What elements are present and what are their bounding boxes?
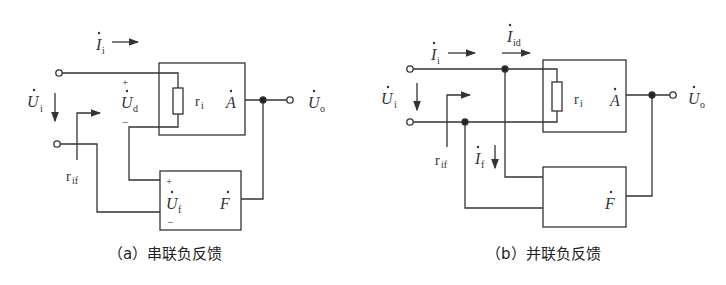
input-terminal-bottom-b <box>407 119 413 125</box>
svg-text:A: A <box>225 94 236 111</box>
svg-text:−: − <box>167 216 173 228</box>
svg-text:o: o <box>700 99 705 110</box>
resistor-ri-b <box>552 82 562 111</box>
svg-text:i: i <box>437 55 440 66</box>
output-node-b <box>649 92 655 98</box>
svg-text:I: I <box>95 36 102 53</box>
svg-text:−: − <box>122 116 128 128</box>
svg-text:id: id <box>513 37 521 48</box>
svg-text:r: r <box>66 169 71 184</box>
node-top-b <box>502 66 508 72</box>
svg-text:i: i <box>394 99 397 110</box>
svg-text:F: F <box>219 195 230 212</box>
svg-text:r: r <box>574 92 579 107</box>
svg-text:f: f <box>178 204 182 215</box>
svg-text:A: A <box>609 92 620 109</box>
svg-text:i: i <box>40 103 43 114</box>
svg-text:I: I <box>430 46 437 63</box>
svg-text:+: + <box>166 175 172 187</box>
node-bottom-b <box>462 119 468 125</box>
svg-text:f: f <box>481 159 485 170</box>
svg-text:o: o <box>320 103 325 114</box>
svg-text:i: i <box>201 100 204 111</box>
svg-text:i: i <box>580 98 583 109</box>
output-terminal-a <box>287 97 293 103</box>
svg-text:U: U <box>381 90 394 107</box>
output-node-a <box>260 97 266 103</box>
caption-a: （a）串联负反馈 <box>108 245 222 263</box>
input-terminal-bottom-a <box>54 141 60 147</box>
svg-text:I: I <box>474 150 481 167</box>
svg-text:i: i <box>102 45 105 56</box>
svg-text:if: if <box>72 175 79 186</box>
diagram-b-parallel-feedback <box>407 53 676 227</box>
labels-a: I i U i + U d − r i A U o r if + U f − F <box>27 32 325 228</box>
svg-text:U: U <box>27 93 40 110</box>
svg-text:r: r <box>195 94 200 109</box>
svg-text:if: if <box>441 159 448 170</box>
output-terminal-b <box>670 92 676 98</box>
svg-text:d: d <box>133 103 138 114</box>
caption-b: （b）并联负反馈 <box>486 245 601 263</box>
input-terminal-top-a <box>56 70 62 76</box>
input-terminal-top-b <box>407 66 413 72</box>
svg-text:r: r <box>435 153 440 168</box>
resistor-ri-a <box>173 88 183 114</box>
svg-text:F: F <box>604 195 615 212</box>
svg-text:+: + <box>122 76 128 88</box>
svg-text:I: I <box>506 28 513 45</box>
